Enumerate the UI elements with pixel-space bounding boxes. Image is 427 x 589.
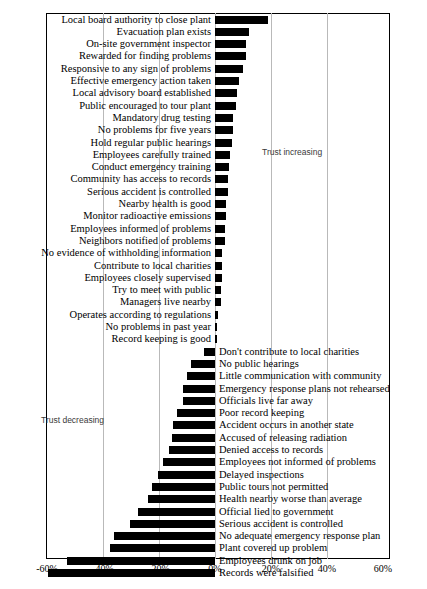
bar-label: Community has access to records — [70, 173, 211, 184]
chart-row: Responsive to any sign of problems — [0, 63, 427, 75]
bar-negative — [177, 409, 215, 417]
bar-label: Employees closely supervised — [84, 272, 211, 283]
bar-label: Effective emergency action taken — [71, 75, 211, 86]
bar-negative — [173, 421, 215, 429]
chart-row: Nearby health is good — [0, 198, 427, 210]
bar-positive — [215, 89, 237, 97]
chart-row: Serious accident is controlled — [0, 518, 427, 530]
bar-negative — [169, 446, 215, 454]
bar-negative — [152, 483, 215, 491]
bar-label: Public tours not permitted — [219, 481, 328, 492]
chart-row: Employees informed of problems — [0, 223, 427, 235]
bar-positive — [215, 163, 229, 171]
chart-row: Managers live nearby — [0, 296, 427, 308]
bar-label: No adequate emergency response plan — [219, 530, 380, 541]
chart-row: Monitor radioactive emissions — [0, 210, 427, 222]
bar-positive — [215, 77, 239, 85]
chart-row: Public tours not permitted — [0, 481, 427, 493]
bar-label: Nearby health is good — [119, 198, 211, 209]
bar-negative — [148, 495, 215, 503]
bar-negative — [183, 385, 215, 393]
chart-row: No problems in past year — [0, 321, 427, 333]
chart-row: Community has access to records — [0, 173, 427, 185]
bar-positive — [215, 175, 228, 183]
chart-row: No problems for five years — [0, 124, 427, 136]
chart-row: Neighbors notified of problems — [0, 235, 427, 247]
bar-positive — [215, 212, 226, 220]
bar-label: Record keeping is good — [112, 333, 211, 344]
chart-row: Try to meet with public — [0, 284, 427, 296]
bar-negative — [114, 532, 215, 540]
bar-label: Try to meet with public — [112, 284, 211, 295]
bar-negative — [130, 520, 215, 528]
chart-row: Hold regular public hearings — [0, 137, 427, 149]
chart-row: Employees closely supervised — [0, 272, 427, 284]
bar-label: Operates according to regulations — [70, 309, 211, 320]
bar-label: No problems in past year — [105, 321, 211, 332]
bar-positive — [215, 102, 236, 110]
bar-label: Accident occurs in another state — [219, 419, 354, 430]
annotation-trust-decreasing: Trust decreasing — [41, 415, 104, 425]
bar-label: Delayed inspections — [219, 469, 304, 480]
chart-row: Mandatory drug testing — [0, 112, 427, 124]
bar-label: Don't contribute to local charities — [219, 346, 359, 357]
chart-row: Effective emergency action taken — [0, 75, 427, 87]
bar-label: No problems for five years — [98, 124, 211, 135]
bar-label: Denied access to records — [219, 444, 323, 455]
bar-positive — [215, 28, 249, 36]
x-tick-20: 20% — [251, 563, 291, 574]
x-tick-0: 0% — [195, 563, 235, 574]
bar-positive — [215, 65, 243, 73]
bar-label: Serious accident is controlled — [87, 186, 211, 197]
bar-positive — [215, 335, 217, 343]
bar-label: Employees not informed of problems — [219, 456, 376, 467]
bar-positive — [215, 16, 268, 24]
bar-negative — [158, 471, 215, 479]
bar-positive — [215, 225, 225, 233]
annotation-trust-increasing: Trust increasing — [262, 147, 322, 157]
bar-label: Contribute to local charities — [94, 260, 211, 271]
x-tick--60: -60% — [27, 563, 67, 574]
chart-row: Official lied to government — [0, 506, 427, 518]
bar-negative — [110, 544, 215, 552]
bar-negative — [172, 434, 215, 442]
bar-negative — [48, 569, 215, 577]
chart-row: Health nearby worse than average — [0, 493, 427, 505]
bar-label: Poor record keeping — [219, 407, 304, 418]
x-tick--40: -40% — [83, 563, 123, 574]
bar-label: Public encouraged to tour plant — [79, 100, 211, 111]
chart-row: No public hearings — [0, 358, 427, 370]
chart-row: Delayed inspections — [0, 469, 427, 481]
bar-negative — [191, 360, 215, 368]
chart-row: Employees not informed of problems — [0, 456, 427, 468]
chart-row: No evidence of withholding information — [0, 247, 427, 259]
bar-label: Employees carefully trained — [93, 149, 211, 160]
bar-negative — [138, 508, 215, 516]
bar-label: Local advisory board established — [73, 87, 212, 98]
bar-positive — [215, 286, 221, 294]
bar-positive — [215, 139, 232, 147]
bar-label: Serious accident is controlled — [219, 518, 343, 529]
chart-row: Officials live far away — [0, 395, 427, 407]
bar-positive — [215, 114, 233, 122]
bar-label: Emergency response plans not rehearsed — [219, 383, 390, 394]
bar-positive — [215, 323, 217, 331]
bar-label: Rewarded for finding problems — [79, 50, 211, 61]
horizontal-bar-chart: Local board authority to close plantEvac… — [0, 0, 427, 589]
x-tick--20: -20% — [139, 563, 179, 574]
bar-positive — [215, 126, 233, 134]
bar-label: Responsive to any sign of problems — [61, 63, 211, 74]
chart-row: Little communication with community — [0, 370, 427, 382]
bar-label: On-site government inspector — [86, 38, 211, 49]
bar-positive — [215, 298, 221, 306]
chart-row: Accused of releasing radiation — [0, 432, 427, 444]
bar-label: Hold regular public hearings — [91, 137, 211, 148]
chart-row: Denied access to records — [0, 444, 427, 456]
bar-label: Officials live far away — [219, 395, 313, 406]
chart-row: Don't contribute to local charities — [0, 346, 427, 358]
bar-label: Accused of releasing radiation — [219, 432, 347, 443]
bar-label: Local board authority to close plant — [61, 14, 211, 25]
bar-label: Health nearby worse than average — [219, 493, 362, 504]
bar-positive — [215, 274, 222, 282]
bar-label: Conduct emergency training — [92, 161, 211, 172]
